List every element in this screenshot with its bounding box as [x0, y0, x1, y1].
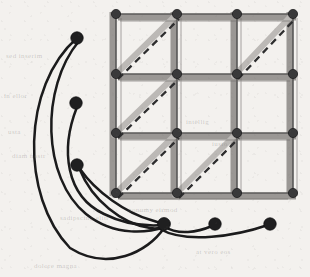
- grid-node-g23[interactable]: [232, 188, 241, 197]
- curve-hub-d: [164, 226, 212, 232]
- grid-node-g13[interactable]: [172, 188, 181, 197]
- diagonal-band-r2c0: [114, 135, 175, 195]
- diagonal-dash-r2c1: [179, 138, 239, 198]
- grid-node-g03[interactable]: [111, 188, 120, 197]
- diagonal-dash-r2c0: [118, 138, 179, 198]
- diagonal-dash-r1c0: [118, 79, 179, 138]
- free-node-e[interactable]: [264, 218, 276, 230]
- grid-node-g01[interactable]: [111, 69, 120, 78]
- free-node-d[interactable]: [209, 218, 221, 230]
- diagonal-band-r0c2: [234, 16, 291, 76]
- grid-node-g31[interactable]: [288, 69, 297, 78]
- grid-node-g10[interactable]: [172, 9, 181, 18]
- diagonal-band-r2c1: [175, 135, 235, 195]
- diagonal-dash-r0c0: [118, 19, 179, 79]
- free-node-b[interactable]: [70, 97, 82, 109]
- grid-node-g32[interactable]: [288, 128, 297, 137]
- free-node-a[interactable]: [71, 32, 83, 44]
- figure-container: Grid graph with diagonal edges and penda…: [0, 0, 310, 277]
- grid-node-g00[interactable]: [111, 9, 120, 18]
- diagonal-dash-r0c2: [238, 19, 295, 79]
- grid-node-g02[interactable]: [111, 128, 120, 137]
- grid-node-g33[interactable]: [288, 188, 297, 197]
- diagonal-band-r1c0: [114, 76, 175, 135]
- free-node-hub[interactable]: [158, 218, 171, 231]
- grid-graph-figure: Grid graph with diagonal edges and penda…: [0, 0, 310, 277]
- diagonal-edge-bands: [114, 16, 291, 195]
- grid-node-g20[interactable]: [232, 9, 241, 18]
- grid-node-g22[interactable]: [232, 128, 241, 137]
- diagonal-band-r0c0: [114, 16, 175, 76]
- free-node-c[interactable]: [71, 159, 83, 171]
- grid-node-g11[interactable]: [172, 69, 181, 78]
- grid-node-g21[interactable]: [232, 69, 241, 78]
- grid-node-g12[interactable]: [172, 128, 181, 137]
- grid-node-g30[interactable]: [288, 9, 297, 18]
